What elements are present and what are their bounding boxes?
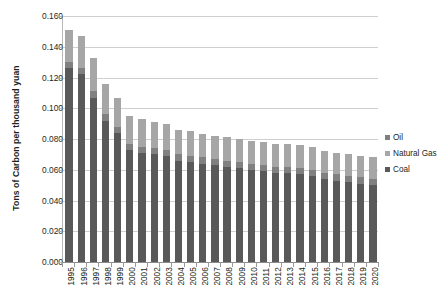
stacked-bar-chart: Tons of Carbon per thousand yuan 0.1600.… bbox=[0, 0, 447, 306]
y-axis-tick-mark bbox=[57, 139, 62, 140]
bar-column bbox=[138, 16, 145, 262]
bar-segment-natural-gas bbox=[369, 157, 376, 179]
bar-column bbox=[345, 16, 352, 262]
bar-segment-natural-gas bbox=[333, 153, 340, 175]
bar-segment-oil bbox=[78, 68, 85, 74]
bar-segment-oil bbox=[65, 62, 72, 68]
bar-segment-coal bbox=[114, 133, 121, 262]
bar-segment-oil bbox=[284, 167, 291, 173]
bar-segment-coal bbox=[296, 174, 303, 262]
x-axis-tick-label: 2003 bbox=[164, 252, 173, 286]
bar-segment-natural-gas bbox=[272, 144, 279, 167]
bar-segment-coal bbox=[151, 154, 158, 262]
bar-column bbox=[65, 16, 72, 262]
bar-column bbox=[90, 16, 97, 262]
x-axis-tick-label: 2004 bbox=[176, 252, 185, 286]
x-axis-tick-label: 2002 bbox=[152, 252, 161, 286]
bar-segment-coal bbox=[248, 170, 255, 262]
bar-column bbox=[163, 16, 170, 262]
bar-segment-coal bbox=[284, 173, 291, 262]
y-axis-tick-label: 0.100 bbox=[15, 104, 63, 112]
y-axis-tick-label: 0.020 bbox=[15, 227, 63, 235]
x-axis-tick-label: 2015 bbox=[310, 252, 319, 286]
bar-segment-coal bbox=[78, 74, 85, 262]
bar-column bbox=[78, 16, 85, 262]
x-axis-tick-mark bbox=[62, 262, 63, 267]
bar-segment-natural-gas bbox=[321, 151, 328, 173]
bar-segment-coal bbox=[65, 68, 72, 262]
x-axis-tick-label: 1998 bbox=[103, 252, 112, 286]
bar-segment-natural-gas bbox=[114, 98, 121, 127]
bar-column bbox=[369, 16, 376, 262]
x-axis-tick-label: 2007 bbox=[213, 252, 222, 286]
bar-segment-natural-gas bbox=[260, 142, 267, 165]
bar-column bbox=[321, 16, 328, 262]
legend-swatch-icon bbox=[385, 151, 390, 156]
bar-segment-natural-gas bbox=[187, 131, 194, 156]
bar-series-group bbox=[63, 16, 378, 262]
y-axis-tick-mark bbox=[57, 170, 62, 171]
bar-column bbox=[284, 16, 291, 262]
y-axis-tick-mark bbox=[57, 16, 62, 17]
bar-segment-natural-gas bbox=[102, 84, 109, 115]
bar-segment-oil bbox=[175, 154, 182, 160]
bar-segment-coal bbox=[345, 182, 352, 262]
bar-segment-oil bbox=[223, 161, 230, 167]
bar-segment-natural-gas bbox=[163, 124, 170, 150]
bar-segment-coal bbox=[175, 161, 182, 262]
legend-label: Coal bbox=[393, 165, 410, 174]
x-axis-tick-label: 2019 bbox=[359, 252, 368, 286]
legend-label: Oil bbox=[393, 133, 403, 142]
x-axis-tick-label: 1997 bbox=[91, 252, 100, 286]
bar-segment-oil bbox=[138, 147, 145, 153]
bar-segment-coal bbox=[369, 185, 376, 262]
bar-segment-coal bbox=[187, 162, 194, 262]
bar-column bbox=[199, 16, 206, 262]
bar-segment-natural-gas bbox=[211, 136, 218, 159]
y-axis-tick-label: 0.080 bbox=[15, 135, 63, 143]
bar-column bbox=[260, 16, 267, 262]
x-axis-tick-label: 2009 bbox=[237, 252, 246, 286]
legend-item: Oil bbox=[385, 129, 447, 145]
x-axis-tick-label: 2014 bbox=[298, 252, 307, 286]
plot-area bbox=[62, 16, 378, 262]
x-axis-tick-label: 2005 bbox=[189, 252, 198, 286]
x-axis-tick-label: 2006 bbox=[201, 252, 210, 286]
bar-column bbox=[248, 16, 255, 262]
bar-segment-oil bbox=[357, 177, 364, 183]
bar-segment-natural-gas bbox=[175, 130, 182, 155]
y-axis-tick-label: 0.120 bbox=[15, 74, 63, 82]
bar-segment-oil bbox=[151, 148, 158, 154]
bar-segment-oil bbox=[260, 165, 267, 171]
bar-column bbox=[236, 16, 243, 262]
bar-segment-natural-gas bbox=[199, 134, 206, 157]
bar-segment-natural-gas bbox=[309, 147, 316, 170]
bar-column bbox=[126, 16, 133, 262]
bar-segment-natural-gas bbox=[223, 137, 230, 160]
bar-segment-oil bbox=[345, 176, 352, 182]
bar-segment-oil bbox=[211, 159, 218, 165]
bar-column bbox=[175, 16, 182, 262]
y-axis-tick-label: 0.140 bbox=[15, 43, 63, 51]
bar-segment-coal bbox=[126, 150, 133, 262]
bar-segment-oil bbox=[296, 168, 303, 174]
bar-column bbox=[114, 16, 121, 262]
y-axis-tick-mark bbox=[57, 78, 62, 79]
bar-segment-coal bbox=[102, 121, 109, 262]
bar-segment-coal bbox=[236, 168, 243, 262]
bar-segment-oil bbox=[272, 167, 279, 173]
bar-segment-natural-gas bbox=[284, 144, 291, 167]
legend-swatch-icon bbox=[385, 167, 390, 172]
bar-segment-oil bbox=[102, 114, 109, 120]
y-axis-tick-mark bbox=[57, 108, 62, 109]
bar-segment-natural-gas bbox=[296, 145, 303, 168]
bar-segment-natural-gas bbox=[151, 122, 158, 148]
y-axis-tick-mark bbox=[57, 201, 62, 202]
x-axis-tick-label: 2001 bbox=[140, 252, 149, 286]
x-axis-tick-label: 2011 bbox=[261, 252, 270, 286]
bar-segment-natural-gas bbox=[65, 30, 72, 62]
legend-item: Natural Gas bbox=[385, 145, 447, 161]
legend-item: Coal bbox=[385, 161, 447, 177]
x-axis-tick-label: 2016 bbox=[322, 252, 331, 286]
bar-segment-natural-gas bbox=[357, 156, 364, 178]
